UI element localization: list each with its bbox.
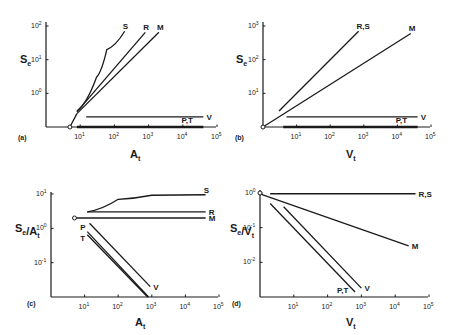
origin-marker [261,125,265,129]
series-label: P,T [337,286,349,295]
x-tick-label: 102 [112,301,123,310]
y-tick-label: 102 [248,54,259,63]
x-axis-label: At [130,148,141,162]
series-label: V [364,284,370,293]
x-tick-label: 102 [322,301,333,310]
x-tick-label: 105 [213,301,224,310]
x-axis-label: At [135,316,146,330]
series-label: V [206,113,212,122]
series-label: P,T [396,116,408,125]
figure: 101102103104105100101102(a)AtSeSRMVP,T 1… [0,0,453,335]
x-tick-label: 101 [74,131,85,140]
series-label: R,S [419,190,433,199]
origin-marker [72,216,76,220]
series-label: V [153,283,159,292]
series-r-line [77,32,145,112]
x-axis-label: Vt [346,148,356,162]
series-label: S [204,186,210,195]
x-tick-label: 105 [423,301,434,310]
origin-marker [258,191,262,195]
x-tick-label: 101 [288,301,299,310]
x-tick-label: 102 [324,131,335,140]
series-label: M [209,214,216,223]
y-axis-label: Se/At [15,222,40,239]
series-m-line [260,194,409,246]
x-tick-label: 104 [177,131,188,140]
panel-label: (a) [18,134,27,142]
series-label: S [123,22,129,31]
y-tick-label: 102 [31,20,42,29]
series-v-line [90,223,151,286]
x-tick-label: 102 [108,131,119,140]
series-label: M [412,242,419,251]
series-pt-line [270,203,355,291]
series-label: T [80,234,85,243]
series-p-line [87,232,148,297]
x-tick-label: 103 [143,131,154,140]
series-label: P,T [181,116,193,125]
y-tick-label: 101 [36,188,47,197]
x-tick-label: 104 [391,131,402,140]
series-v-line [284,207,362,288]
panel-b: 101102103104105101102103(b)VtSeR,SMVP,T [235,20,436,162]
panel-label: (b) [235,134,244,142]
series-label: R [143,23,149,32]
y-tick-label: 101 [248,87,259,96]
series-label: M [157,23,164,32]
y-tick-label: 103 [248,20,259,29]
series-m-line [77,32,159,113]
x-tick-label: 101 [79,301,90,310]
x-axis-label: Vt [346,316,356,330]
x-tick-label: 103 [146,301,157,310]
y-tick-label: 100 [245,187,256,196]
origin-marker [68,125,72,129]
panel-d: 10110210310410510-210-1100(d)VtSe/VtR,SM… [230,187,434,330]
panel-a: 101102103104105100101102(a)AtSeSRMVP,T [18,20,222,162]
y-tick-label: 10-1 [34,257,46,266]
x-tick-label: 105 [425,131,436,140]
y-tick-label: 100 [31,87,42,96]
panel-label: (c) [27,300,36,308]
series-label: P [80,223,86,232]
x-tick-label: 105 [211,131,222,140]
y-tick-label: 10-2 [243,256,255,265]
series-label: M [409,24,416,33]
x-tick-label: 103 [355,301,366,310]
y-axis-label: Se [20,53,31,67]
panel-c: 10110210310410510-1100101(c)AtSe/AtSRMVP… [15,186,224,330]
series-label: V [421,113,427,122]
x-tick-label: 104 [179,301,190,310]
x-tick-label: 101 [291,131,302,140]
panel-label: (d) [232,300,241,308]
x-tick-label: 103 [358,131,369,140]
series-m-line [263,33,411,127]
series-rs-line [279,31,359,111]
y-axis-label: Se/Vt [230,222,255,239]
series-s-line [77,31,125,111]
y-tick-label: 101 [31,54,42,63]
x-tick-label: 104 [389,301,400,310]
series-t-line [87,235,147,297]
series-label: R,S [357,22,371,31]
y-tick-label: 100 [36,222,47,231]
series-s-line [87,195,205,212]
y-axis-label: Se [236,53,247,67]
